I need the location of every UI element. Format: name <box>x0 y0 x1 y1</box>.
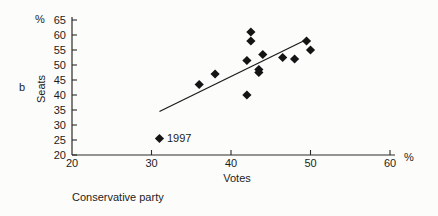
x-tick-label: 50 <box>304 157 316 170</box>
x-axis-caption: Conservative party <box>72 191 164 204</box>
y-tick-label: 65 <box>0 14 66 27</box>
x-axis-unit-label: % <box>404 151 414 164</box>
scatter-figure: 202530354045505560652030405060 % b Seats… <box>0 0 438 216</box>
data-point-marker <box>246 27 255 36</box>
x-tick-label: 30 <box>145 157 157 170</box>
data-point-marker <box>278 53 287 62</box>
y-tick-label: 30 <box>0 119 66 132</box>
trend-line <box>159 40 306 112</box>
y-tick-label: 55 <box>0 44 66 57</box>
data-point-marker <box>302 36 311 45</box>
y-tick-label: 50 <box>0 59 66 72</box>
data-point-marker-labeled <box>155 134 164 143</box>
data-point-marker <box>195 80 204 89</box>
data-point-marker <box>290 54 299 63</box>
data-point-marker <box>246 36 255 45</box>
y-tick-label: 25 <box>0 134 66 147</box>
panel-label: b <box>19 81 25 94</box>
y-tick-label: 20 <box>0 149 66 162</box>
data-point-marker <box>258 50 267 59</box>
y-tick-label: 45 <box>0 74 66 87</box>
data-point-marker <box>211 69 220 78</box>
x-tick-label: 60 <box>384 157 396 170</box>
y-tick-label: 35 <box>0 104 66 117</box>
point-annotation-1997: 1997 <box>167 132 191 145</box>
y-axis-title: Seats <box>35 75 48 103</box>
x-tick-label: 20 <box>66 157 78 170</box>
y-axis-unit-label: % <box>35 13 45 26</box>
y-tick-label: 60 <box>0 29 66 42</box>
data-point-marker <box>306 45 315 54</box>
x-axis-title: Votes <box>223 172 251 185</box>
data-point-marker <box>242 90 251 99</box>
y-tick-label: 40 <box>0 89 66 102</box>
data-point-marker <box>242 56 251 65</box>
x-tick-label: 40 <box>225 157 237 170</box>
